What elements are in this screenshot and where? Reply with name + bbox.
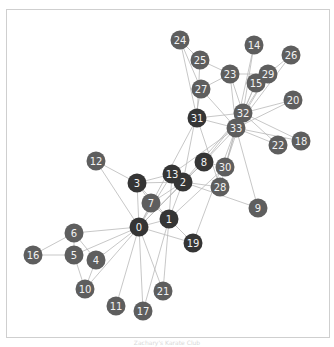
node-26[interactable]: 26	[282, 46, 301, 65]
node-label: 29	[262, 69, 275, 80]
node-12[interactable]: 12	[87, 152, 106, 171]
node-11[interactable]: 11	[107, 297, 126, 316]
node-label: 9	[255, 203, 261, 214]
figure-caption: Zachary's Karate Club	[0, 339, 334, 346]
edge-28-31	[197, 118, 220, 187]
node-label: 19	[187, 238, 200, 249]
node-31[interactable]: 31	[188, 109, 207, 128]
edge-0-17	[139, 227, 143, 311]
node-label: 23	[224, 69, 237, 80]
node-label: 32	[237, 108, 250, 119]
edge-9-33	[236, 128, 258, 208]
node-1[interactable]: 1	[160, 210, 179, 229]
edge-0-11	[116, 227, 139, 306]
node-label: 13	[166, 169, 179, 180]
node-label: 33	[230, 123, 243, 134]
node-label: 26	[285, 50, 298, 61]
edge-24-31	[180, 40, 197, 118]
node-25[interactable]: 25	[191, 51, 210, 70]
node-4[interactable]: 4	[87, 251, 106, 270]
node-label: 4	[93, 255, 99, 266]
node-label: 22	[272, 140, 285, 151]
node-label: 20	[287, 95, 300, 106]
node-19[interactable]: 19	[184, 234, 203, 253]
node-label: 12	[90, 156, 103, 167]
node-20[interactable]: 20	[284, 91, 303, 110]
node-label: 1	[166, 214, 172, 225]
node-21[interactable]: 21	[154, 282, 173, 301]
node-label: 24	[174, 35, 187, 46]
node-label: 27	[195, 84, 208, 95]
edge-0-12	[96, 161, 139, 227]
node-label: 11	[110, 301, 123, 312]
node-17[interactable]: 17	[134, 302, 153, 321]
node-label: 30	[219, 162, 232, 173]
node-0[interactable]: 0	[130, 218, 149, 237]
node-label: 17	[137, 306, 150, 317]
edge-0-6	[74, 227, 139, 233]
node-label: 5	[71, 250, 77, 261]
edge-18-33	[236, 128, 301, 141]
node-label: 0	[136, 222, 142, 233]
node-label: 6	[71, 228, 77, 239]
node-label: 14	[248, 40, 261, 51]
node-label: 7	[148, 198, 154, 209]
node-label: 10	[79, 284, 92, 295]
node-label: 25	[194, 55, 207, 66]
node-layer: 0123456789101112131415161718192021222324…	[24, 31, 311, 321]
node-18[interactable]: 18	[292, 132, 311, 151]
node-23[interactable]: 23	[221, 65, 240, 84]
node-label: 21	[157, 286, 170, 297]
node-9[interactable]: 9	[249, 199, 268, 218]
node-3[interactable]: 3	[128, 174, 147, 193]
node-29[interactable]: 29	[259, 65, 278, 84]
node-13[interactable]: 13	[163, 165, 182, 184]
node-5[interactable]: 5	[65, 246, 84, 265]
node-label: 2	[180, 177, 186, 188]
node-label: 8	[201, 157, 207, 168]
node-14[interactable]: 14	[245, 36, 264, 55]
edge-0-5	[74, 227, 139, 255]
node-16[interactable]: 16	[24, 246, 43, 265]
node-8[interactable]: 8	[195, 153, 214, 172]
node-label: 16	[27, 250, 40, 261]
node-27[interactable]: 27	[192, 80, 211, 99]
network-graph: 0123456789101112131415161718192021222324…	[0, 0, 334, 347]
node-label: 31	[191, 113, 204, 124]
node-7[interactable]: 7	[142, 194, 161, 213]
node-22[interactable]: 22	[269, 136, 288, 155]
node-label: 28	[214, 182, 227, 193]
node-33[interactable]: 33	[227, 119, 246, 138]
edge-18-32	[243, 113, 301, 141]
node-label: 18	[295, 136, 308, 147]
node-10[interactable]: 10	[76, 280, 95, 299]
node-label: 3	[134, 178, 140, 189]
node-24[interactable]: 24	[171, 31, 190, 50]
node-6[interactable]: 6	[65, 224, 84, 243]
node-30[interactable]: 30	[216, 158, 235, 177]
node-28[interactable]: 28	[211, 178, 230, 197]
